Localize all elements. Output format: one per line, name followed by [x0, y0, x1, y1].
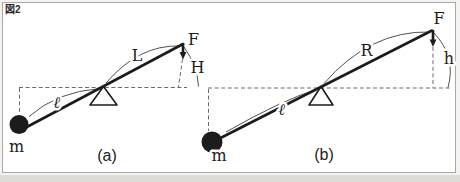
force-label-b: F	[433, 9, 444, 28]
mass-label-a: m	[9, 137, 24, 156]
caption-a: (a)	[97, 147, 117, 164]
figure-2-panel: 図2 F H L ℓ m (a)	[0, 0, 460, 182]
short-arm-label-a: ℓ	[53, 93, 60, 112]
long-arm-label-b: R	[360, 41, 373, 60]
caption-b: (b)	[314, 146, 334, 163]
figure-number-label: 図2	[5, 4, 21, 15]
height-label-b: h	[444, 49, 454, 68]
long-arm-label-a: L	[132, 46, 143, 65]
short-arm-label-b: ℓ	[278, 100, 285, 119]
mass-label-b: m	[211, 146, 226, 165]
height-label-a: H	[191, 58, 205, 77]
force-label-a: F	[188, 30, 199, 49]
mass-circle-a	[10, 115, 29, 134]
page-edge-strip	[0, 175, 460, 182]
